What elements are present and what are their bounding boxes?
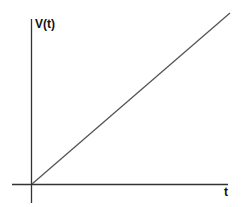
x-axis-label: t [224,186,228,198]
y-axis-label: V(t) [35,18,55,30]
chart-area [0,0,242,207]
data-line-v-of-t [32,13,230,184]
